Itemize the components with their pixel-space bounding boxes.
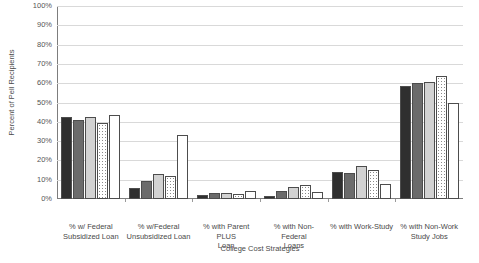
bar bbox=[109, 115, 120, 199]
y-axis-tick-label: 50% bbox=[10, 99, 52, 107]
bar bbox=[209, 193, 220, 199]
bar bbox=[153, 174, 164, 199]
bar bbox=[276, 191, 287, 199]
bar bbox=[300, 185, 311, 199]
x-axis-tick bbox=[125, 199, 126, 202]
bar bbox=[85, 117, 96, 199]
x-axis-tick-label-line: % with Non-Work bbox=[396, 222, 462, 232]
y-axis-tick-label: 0% bbox=[10, 195, 52, 203]
bar bbox=[264, 196, 275, 199]
bar bbox=[356, 166, 367, 199]
x-axis-tick-label-line: Study Jobs bbox=[396, 232, 462, 242]
bar bbox=[73, 120, 84, 199]
x-axis-tick-label-line: % with Non-Federal bbox=[261, 222, 327, 241]
x-axis-tick-label-line: Subsidized Loan bbox=[58, 232, 124, 242]
bar bbox=[233, 194, 244, 199]
bar bbox=[197, 195, 208, 199]
bar bbox=[344, 173, 355, 199]
bar-group bbox=[328, 6, 396, 199]
bar bbox=[165, 176, 176, 199]
y-axis-title: Percent of Pell Recipients bbox=[7, 18, 16, 168]
x-axis-tick bbox=[395, 199, 396, 202]
x-axis-tick-label-line: % w/Federal bbox=[126, 222, 192, 232]
y-axis-tick-label: 100% bbox=[10, 2, 52, 10]
x-axis-title: College Cost Strategies bbox=[57, 244, 463, 253]
y-axis-tick-label: 10% bbox=[10, 176, 52, 184]
y-axis-tick-label: 90% bbox=[10, 21, 52, 29]
y-axis-tick-label: 30% bbox=[10, 137, 52, 145]
x-axis-tick bbox=[192, 199, 193, 202]
x-axis-tick-label-line: Unsubsidized Loan bbox=[126, 232, 192, 242]
bar bbox=[129, 188, 140, 199]
bar bbox=[61, 117, 72, 199]
bar bbox=[288, 187, 299, 199]
bar bbox=[97, 123, 108, 199]
bar-group bbox=[192, 6, 260, 199]
bar bbox=[424, 82, 435, 199]
chart-container: 100%90%80%70%60%50%40%30%20%10%0% Percen… bbox=[0, 0, 479, 263]
x-axis-tick-label-line: % w/ Federal bbox=[58, 222, 124, 232]
bar bbox=[380, 184, 391, 199]
x-axis-tick bbox=[328, 199, 329, 202]
y-axis-tick-label: 60% bbox=[10, 79, 52, 87]
bar bbox=[141, 181, 152, 199]
bar-group bbox=[260, 6, 328, 199]
bar-group bbox=[125, 6, 193, 199]
bar-groups bbox=[57, 6, 463, 199]
bar bbox=[312, 192, 323, 199]
y-axis-tick-label: 40% bbox=[10, 118, 52, 126]
bar bbox=[332, 172, 343, 199]
bar bbox=[221, 193, 232, 199]
y-axis-tick-label: 80% bbox=[10, 41, 52, 49]
y-axis-tick-label: 70% bbox=[10, 60, 52, 68]
x-axis-tick-label-line: % with Work-Study bbox=[329, 222, 395, 232]
bar bbox=[245, 191, 256, 199]
bar-group bbox=[57, 6, 125, 199]
bar bbox=[400, 86, 411, 199]
bar bbox=[436, 76, 447, 199]
y-axis-tick-label: 20% bbox=[10, 156, 52, 164]
bar bbox=[368, 170, 379, 199]
bar bbox=[177, 135, 188, 199]
bar-group bbox=[395, 6, 463, 199]
plot-area bbox=[57, 6, 463, 199]
x-axis-tick bbox=[260, 199, 261, 202]
bar bbox=[448, 103, 459, 200]
bar bbox=[412, 83, 423, 199]
x-axis-tick-label-line: % with Parent PLUS bbox=[193, 222, 259, 241]
